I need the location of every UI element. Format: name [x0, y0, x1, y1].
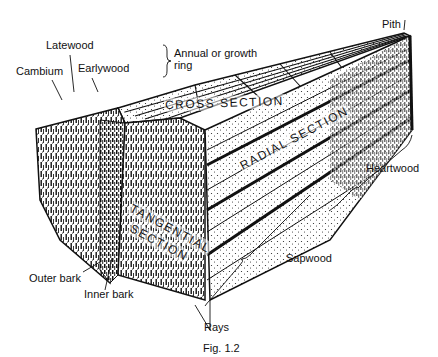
label-earlywood: Earlywood — [78, 62, 129, 74]
label-inner-bark: Inner bark — [84, 288, 134, 300]
label-outer-bark: Outer bark — [29, 272, 81, 284]
label-annual-ring-line1: Annual or growth — [174, 47, 257, 59]
earlywood-leader — [92, 78, 98, 92]
annual-ring-brace — [163, 45, 171, 77]
label-pith: Pith — [382, 18, 401, 30]
label-cambium: Cambium — [16, 65, 63, 77]
cambium-leader — [52, 80, 62, 100]
label-rays: Rays — [204, 321, 229, 333]
label-latewood: Latewood — [46, 39, 94, 51]
label-sapwood: Sapwood — [286, 252, 332, 264]
latewood-leader — [70, 55, 74, 92]
label-heartwood: Heartwood — [366, 162, 419, 174]
figure-caption: Fig. 1.2 — [203, 342, 240, 354]
label-annual-ring-line2: ring — [174, 59, 192, 71]
pith-leader — [404, 20, 405, 30]
